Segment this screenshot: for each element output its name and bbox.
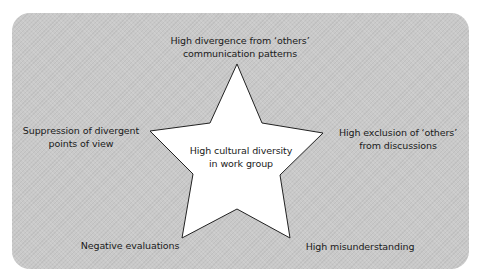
outcome-bottom-left-line1: Negative evaluations (70, 239, 190, 252)
outcome-top: High divergence from ‘others’ communicat… (160, 34, 320, 60)
outcome-bottom-right-line1: High misunderstanding (290, 240, 430, 253)
outcome-top-line2: communication patterns (160, 47, 320, 60)
outcome-left-line2: points of view (16, 137, 146, 150)
outcome-right-line2: from discussions (328, 139, 468, 152)
outcome-bottom-left: Negative evaluations (70, 239, 190, 252)
outcome-bottom-right: High misunderstanding (290, 240, 430, 253)
center-label-line2: in work group (186, 157, 296, 170)
outcome-left-line1: Suppression of divergent (16, 124, 146, 137)
outcome-left: Suppression of divergent points of view (16, 124, 146, 150)
outcome-right-line1: High exclusion of ‘others’ (328, 126, 468, 139)
outcome-top-line1: High divergence from ‘others’ (160, 34, 320, 47)
outcome-right: High exclusion of ‘others’ from discussi… (328, 126, 468, 152)
center-label-line1: High cultural diversity (186, 144, 296, 157)
center-label: High cultural diversity in work group (186, 144, 296, 170)
